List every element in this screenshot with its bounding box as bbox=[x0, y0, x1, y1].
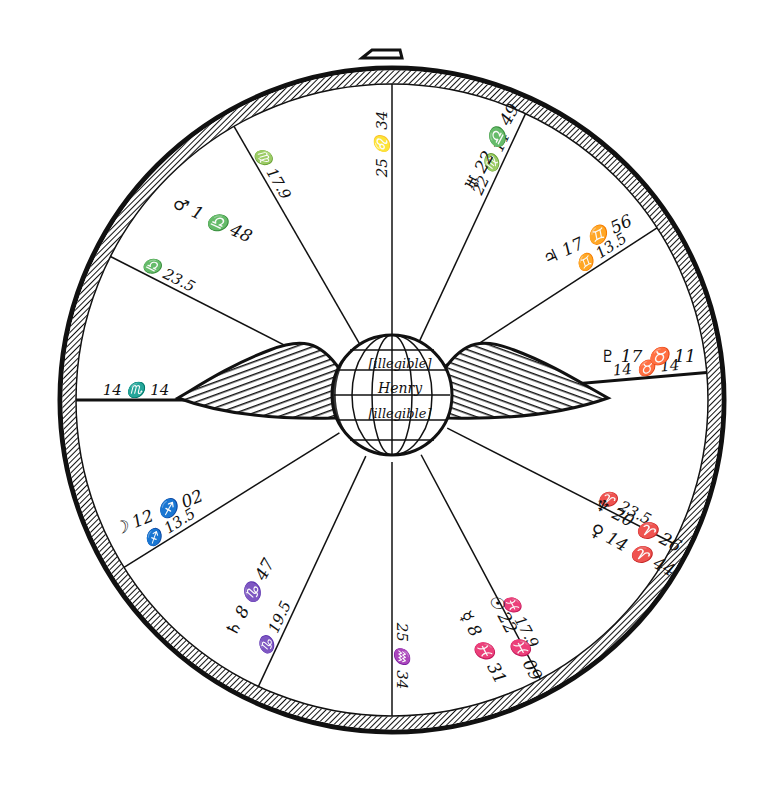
planet-mars-label: ♂ 1 ♎ 48 bbox=[170, 193, 256, 247]
cusp-label-house-5: ♑ 19.5 bbox=[255, 598, 295, 657]
cusp-line-house-6 bbox=[124, 433, 339, 568]
cusp-label-house-4: 25 ♒ 34 bbox=[393, 622, 411, 690]
winged-globe-emblem: [illegible] Henry [illegible] bbox=[178, 335, 608, 455]
horoscope-wheel: 25 ♌ 3422 ♍ 14♊ 13.514 ♉ 14♈ 23.5♓ 17.92… bbox=[0, 0, 769, 804]
ring-clasp bbox=[362, 50, 402, 58]
cusp-line-house-11 bbox=[418, 114, 525, 344]
cusp-label-house-7: 14 ♏ 14 bbox=[103, 381, 170, 399]
globe-name-line-1: [illegible] bbox=[369, 356, 433, 371]
right-wing-icon bbox=[441, 343, 608, 418]
planet-pluto-label: ♇ 17 ♉ 11 bbox=[600, 346, 696, 366]
globe-name-line-2: Henry bbox=[377, 380, 423, 396]
cusp-label-house-10: 25 ♌ 34 bbox=[373, 111, 391, 179]
left-wing-icon bbox=[178, 343, 343, 418]
globe-name-line-3: [illegible] bbox=[369, 406, 433, 421]
cusp-line-house-9 bbox=[234, 126, 361, 346]
